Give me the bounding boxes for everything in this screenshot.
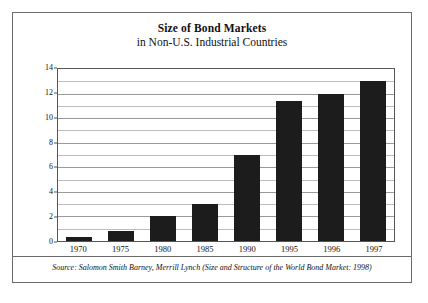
bar (150, 216, 176, 241)
chart-title: Size of Bond Markets (13, 21, 411, 35)
y-axis-tick-label: 10 (33, 114, 53, 122)
y-axis-tick-label: 0 (33, 238, 53, 246)
y-axis-tick-label: 4 (33, 188, 53, 196)
bar (234, 155, 260, 241)
bar-slot (226, 69, 268, 241)
bar (318, 94, 344, 241)
bar-slot (352, 69, 394, 241)
x-axis-tick-label: 1997 (353, 244, 395, 254)
x-axis-tick-label: 1985 (184, 244, 226, 254)
title-block: Size of Bond Markets in Non-U.S. Industr… (13, 21, 411, 49)
bar-slot (184, 69, 226, 241)
y-axis-tick-label: 6 (33, 163, 53, 171)
x-axis-tick-label: 1995 (268, 244, 310, 254)
x-axis-tick-label: 1996 (311, 244, 353, 254)
bar (360, 81, 386, 241)
bar (276, 101, 302, 241)
x-axis-tick-label: 1975 (99, 244, 141, 254)
source-divider (13, 256, 411, 257)
bar-series (58, 69, 394, 241)
bar (108, 231, 134, 241)
y-axis-tick-labels: 02468101214 (33, 68, 53, 242)
x-axis-tick-labels: 19701975198019851990199519961997 (57, 244, 395, 254)
bar-slot (142, 69, 184, 241)
y-axis-tick-label: 8 (33, 139, 53, 147)
x-axis-tick-label: 1980 (142, 244, 184, 254)
bar-slot (268, 69, 310, 241)
bar (66, 237, 92, 241)
x-axis-tick-label: 1970 (57, 244, 99, 254)
bar-slot (100, 69, 142, 241)
bar (192, 204, 218, 241)
plot-area (57, 68, 395, 242)
bar-slot (310, 69, 352, 241)
bar-slot (58, 69, 100, 241)
y-axis-tick-label: 2 (33, 213, 53, 221)
plot-area-wrapper: $ Trillion 02468101214 (57, 68, 395, 242)
y-axis-tick-label: 12 (33, 89, 53, 97)
chart-subtitle: in Non-U.S. Industrial Countries (13, 35, 411, 49)
source-note: Source: Salomon Smith Barney, Merrill Ly… (23, 262, 401, 273)
y-axis-tick-label: 14 (33, 64, 53, 72)
x-axis-tick-label: 1990 (226, 244, 268, 254)
chart-figure: Size of Bond Markets in Non-U.S. Industr… (12, 12, 412, 283)
